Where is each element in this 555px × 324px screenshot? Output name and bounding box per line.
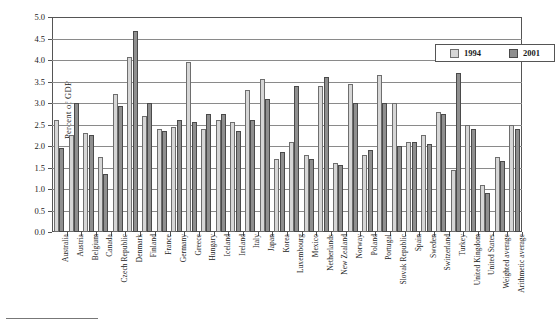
- x-axis-labels: AustraliaAustriaBelgiumCanadaCzech Repub…: [52, 234, 522, 322]
- bar-1994: [157, 129, 162, 232]
- legend: 1994 2001: [435, 44, 555, 62]
- x-axis-label: Sweden: [430, 234, 437, 258]
- bar-group: [289, 17, 299, 232]
- x-axis-label: Switzerland: [444, 234, 451, 270]
- bar-group: [406, 17, 416, 232]
- bar-group: [171, 17, 181, 232]
- bar-group: [245, 17, 255, 232]
- bar-1994: [186, 62, 191, 232]
- bar-1994: [142, 116, 147, 232]
- x-axis-label: Japan: [268, 234, 275, 251]
- bar-group: [69, 17, 79, 232]
- x-axis-label: Czech Republic: [121, 234, 128, 282]
- x-axis-label: Slovak Republic: [400, 234, 407, 285]
- x-axis-label: Germany: [180, 234, 187, 262]
- bar-2001: [441, 114, 446, 232]
- bar-2001: [456, 73, 461, 232]
- legend-label-1994: 1994: [464, 48, 481, 58]
- bar-group: [348, 17, 358, 232]
- bar-1994: [289, 142, 294, 232]
- x-axis-label: Austria: [77, 234, 84, 256]
- bar-1994: [83, 133, 88, 232]
- bar-group: [201, 17, 211, 232]
- bar-1994: [127, 57, 132, 232]
- bar-1994: [230, 122, 235, 232]
- x-axis-label: Finland: [150, 234, 157, 257]
- bar-1994: [54, 120, 59, 232]
- y-tick-label: 2.5: [34, 120, 45, 129]
- bar-2001: [206, 114, 211, 232]
- x-axis-label: New Zealand: [341, 234, 348, 275]
- footnote-divider: [6, 318, 98, 319]
- bar-2001: [236, 131, 241, 232]
- x-axis-label: Spain: [415, 234, 422, 251]
- y-tick-label: 1.0: [34, 185, 45, 194]
- bar-1994: [465, 125, 470, 233]
- bar-2001: [500, 161, 505, 232]
- bar-1994: [451, 170, 456, 232]
- bar-1994: [362, 155, 367, 232]
- x-axis-label: Poland: [371, 234, 378, 255]
- bar-1994: [392, 103, 397, 232]
- bar-1994: [260, 79, 265, 232]
- bar-2001: [147, 103, 152, 232]
- bar-1994: [171, 127, 176, 232]
- x-axis-label: Mexico: [312, 234, 319, 257]
- bar-group: [421, 17, 431, 232]
- x-axis-label: Iceland: [224, 234, 231, 256]
- y-tick-label: 5.0: [34, 13, 45, 22]
- bar-group: [127, 17, 137, 232]
- x-axis-label: Luxembourg: [297, 234, 304, 273]
- bar-1994: [436, 112, 441, 232]
- bar-group: [157, 17, 167, 232]
- bar-group: [142, 17, 152, 232]
- bar-group: [392, 17, 402, 232]
- bar-1994: [113, 94, 118, 232]
- bar-group: [113, 17, 123, 232]
- bar-2001: [309, 159, 314, 232]
- bar-1994: [318, 86, 323, 232]
- x-axis-label: United Kingdom: [474, 234, 481, 285]
- bar-1994: [495, 157, 500, 232]
- bar-2001: [368, 150, 373, 232]
- x-axis-label: Australia: [62, 234, 69, 262]
- y-tick-label: 0.5: [34, 206, 45, 215]
- bar-group: [216, 17, 226, 232]
- bar-group: [83, 17, 93, 232]
- bar-2001: [250, 120, 255, 232]
- x-axis-label: Italy: [253, 234, 260, 248]
- bar-1994: [333, 163, 338, 232]
- bar-2001: [485, 193, 490, 232]
- bar-2001: [294, 86, 299, 232]
- x-axis-label: Netherlands: [327, 234, 334, 271]
- bar-group: [377, 17, 387, 232]
- x-axis-label: United States: [488, 234, 495, 275]
- bar-2001: [118, 106, 123, 232]
- x-axis-label: France: [165, 234, 172, 255]
- x-axis-label: Greece: [195, 234, 202, 256]
- x-axis-label: Ireland: [239, 234, 246, 256]
- x-axis-label: Korea: [283, 234, 290, 253]
- legend-swatch-1994: [450, 49, 459, 58]
- bar-2001: [89, 135, 94, 232]
- bar-2001: [59, 148, 64, 232]
- x-axis-label: Canada: [106, 234, 113, 257]
- x-axis-label: Arithmetic average: [518, 234, 525, 293]
- y-tick-mark: [48, 232, 52, 233]
- bar-2001: [427, 144, 432, 232]
- plot-area: Percent of GDP 0.00.51.01.52.02.53.03.54…: [52, 17, 522, 232]
- bar-1994: [480, 185, 485, 232]
- bar-1994: [304, 155, 309, 232]
- bar-1994: [201, 129, 206, 232]
- bar-group: [362, 17, 372, 232]
- bar-group: [230, 17, 240, 232]
- bar-2001: [382, 103, 387, 232]
- x-axis-label: Turkey: [459, 234, 466, 256]
- y-tick-label: 2.0: [34, 142, 45, 151]
- bar-group: [274, 17, 284, 232]
- bar-1994: [69, 135, 74, 232]
- x-axis-label: Norway: [356, 234, 363, 258]
- legend-swatch-2001: [509, 49, 518, 58]
- bar-group: [318, 17, 328, 232]
- bar-1994: [274, 159, 279, 232]
